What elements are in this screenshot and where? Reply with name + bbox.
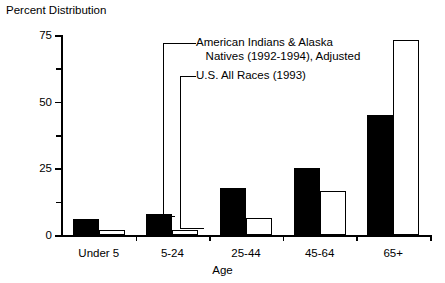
annotation-natives-line2: Natives (1992-1994), Adjusted	[196, 50, 360, 64]
y-axis-tick-minor	[56, 202, 61, 204]
y-axis-tick-label: 25	[0, 162, 52, 174]
annotation-all-races-line1: U.S. All Races (1993)	[196, 69, 306, 83]
bar-us-all-races	[172, 230, 198, 235]
y-axis-tick-major	[55, 102, 61, 104]
leader-line-natives-horizontal-bottom	[163, 216, 175, 217]
bar-american-indians-alaska-natives	[367, 115, 393, 235]
x-axis-tick-label: 5-24	[161, 247, 184, 260]
y-axis-tick-major	[55, 168, 61, 170]
y-axis-tick-label: 0	[0, 229, 52, 241]
chart-title: Percent Distribution	[6, 3, 106, 17]
x-axis-title: Age	[0, 264, 445, 277]
x-axis-tick-label: 45-64	[305, 247, 334, 260]
y-axis-tick-minor	[56, 68, 61, 70]
y-axis-tick-major	[55, 235, 61, 237]
bar-american-indians-alaska-natives	[220, 188, 246, 235]
leader-line-all-races-vertical	[180, 76, 181, 229]
leader-line-natives-horizontal-top	[163, 43, 196, 44]
leader-line-all-races-horizontal-top	[180, 76, 196, 77]
leader-line-natives-vertical	[163, 43, 164, 217]
y-axis-tick-major	[55, 35, 61, 37]
x-axis-tick	[209, 235, 211, 241]
x-axis-line	[61, 235, 431, 237]
x-axis-tick	[136, 235, 138, 241]
x-axis-tick	[356, 235, 358, 241]
x-axis-tick	[283, 235, 285, 241]
bar-us-all-races	[246, 218, 272, 235]
percent-distribution-bar-chart: Percent Distribution 0255075 Under 55-24…	[0, 0, 445, 283]
bar-us-all-races	[99, 230, 125, 235]
y-axis-tick-minor	[56, 135, 61, 137]
y-axis-tick-label: 50	[0, 96, 52, 108]
x-axis-tick-label: 65+	[383, 247, 403, 260]
x-axis-tick-label: 25-44	[231, 247, 260, 260]
leader-line-all-races-horizontal-bottom	[180, 228, 204, 229]
bar-us-all-races	[320, 191, 346, 235]
y-axis-tick-label: 75	[0, 29, 52, 41]
plot-area	[62, 35, 430, 235]
bar-american-indians-alaska-natives	[294, 168, 320, 235]
x-axis-tick	[430, 235, 432, 241]
x-axis-tick-label: Under 5	[78, 247, 119, 260]
bar-american-indians-alaska-natives	[146, 214, 172, 235]
annotation-natives-line1: American Indians & Alaska	[196, 36, 333, 50]
bar-us-all-races	[393, 40, 419, 235]
bar-american-indians-alaska-natives	[73, 219, 99, 235]
